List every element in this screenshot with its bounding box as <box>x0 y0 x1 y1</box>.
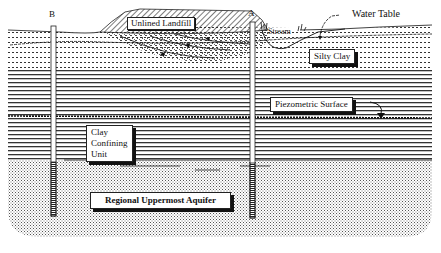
clay-confining-layer <box>8 70 432 160</box>
water-table-label: Water Table <box>352 8 400 19</box>
well-a-label: A <box>248 8 255 18</box>
diagram-graphics <box>0 0 441 253</box>
clay-confining-unit-label: Clay Confining Unit <box>86 125 133 162</box>
well-b-screen <box>51 162 56 216</box>
cross-section-diagram: B A Unlined Landfill Stream Water Table … <box>0 0 441 253</box>
landfill-label: Unlined Landfill <box>127 17 195 30</box>
well-a-screen <box>250 163 255 218</box>
silty-clay-label: Silty Clay <box>309 49 355 64</box>
well-b-label: B <box>49 9 55 19</box>
stream-label: Stream <box>268 27 291 36</box>
aquifer-label: Regional Uppermost Aquifer <box>90 192 231 209</box>
piezometric-surface-label: Piezometric Surface <box>270 97 353 112</box>
